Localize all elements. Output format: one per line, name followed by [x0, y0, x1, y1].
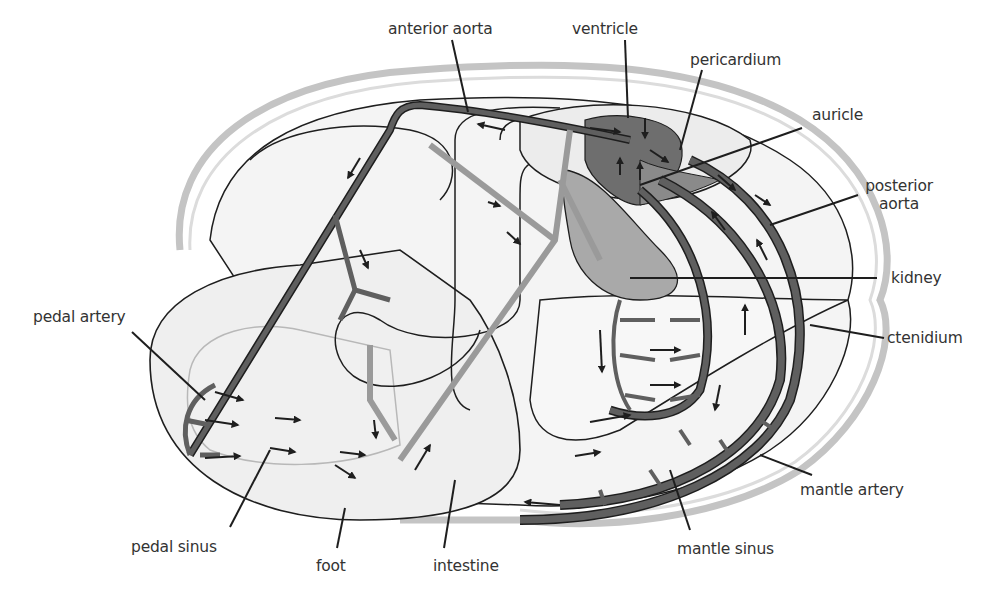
label-posterior-aorta-line2: aorta: [879, 195, 919, 213]
label-kidney: kidney: [891, 269, 941, 287]
label-mantle-artery: mantle artery: [800, 481, 904, 499]
label-ctenidium: ctenidium: [887, 329, 963, 347]
label-posterior-aorta: posterior aorta: [862, 177, 936, 213]
label-mantle-sinus: mantle sinus: [677, 540, 774, 558]
label-pedal-sinus: pedal sinus: [131, 538, 217, 556]
label-auricle: auricle: [812, 106, 863, 124]
bivalve-circulation-diagram: [0, 0, 997, 598]
label-anterior-aorta: anterior aorta: [388, 20, 493, 38]
label-posterior-aorta-line1: posterior: [865, 177, 933, 195]
label-foot: foot: [316, 557, 346, 575]
label-pedal-artery: pedal artery: [33, 308, 126, 326]
label-pericardium: pericardium: [690, 51, 781, 69]
label-ventricle: ventricle: [572, 20, 638, 38]
label-intestine: intestine: [433, 557, 499, 575]
